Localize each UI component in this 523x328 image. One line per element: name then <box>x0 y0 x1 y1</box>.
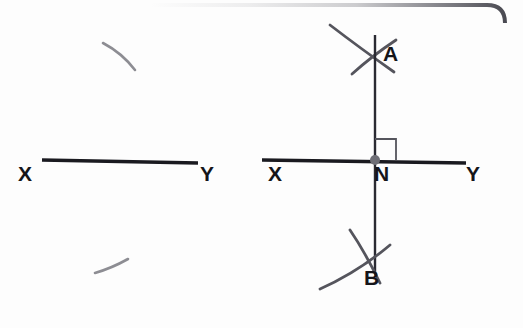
label-x-left: X <box>18 163 32 184</box>
geometry-figure: X Y A X N Y B <box>0 0 523 328</box>
label-y-left: Y <box>200 163 214 184</box>
label-y-right: Y <box>466 163 480 184</box>
label-point-b: B <box>364 267 379 288</box>
label-point-n: N <box>374 163 389 184</box>
label-x-right: X <box>268 163 282 184</box>
label-point-a: A <box>383 43 398 64</box>
figure-canvas <box>0 0 523 328</box>
